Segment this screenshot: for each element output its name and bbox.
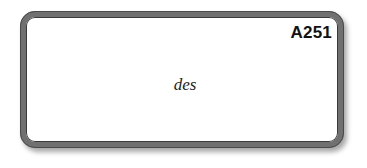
card-code: A251	[291, 23, 332, 43]
card-word: des	[26, 75, 338, 95]
flash-card: A251 des	[20, 11, 344, 148]
